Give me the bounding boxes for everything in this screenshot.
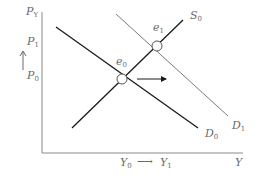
equilibrium-point-e1 [152, 41, 162, 51]
label-d0: D0 [205, 128, 218, 141]
supply-curve-s0 [72, 20, 183, 128]
label-e0: e0 [116, 56, 127, 69]
label-y1: Y1 [160, 157, 172, 170]
label-p1: P1 [27, 36, 39, 49]
label-d1: D1 [232, 120, 245, 133]
diagram-canvas [0, 0, 260, 178]
supply-demand-diagram: PY P1 P0 e0 e1 S0 D1 D0 Y0 ⟶ Y1 Y [0, 0, 260, 178]
equilibrium-point-e0 [117, 74, 127, 84]
label-s0: S0 [190, 10, 202, 23]
label-p0: P0 [27, 70, 39, 83]
right-arrow-icon: ⟶ [137, 156, 153, 167]
label-e1: e1 [153, 22, 164, 35]
demand-curve-d1 [116, 14, 228, 116]
label-py: PY [26, 6, 38, 19]
x-axis-title: Y [235, 157, 242, 168]
label-y0: Y0 [120, 157, 132, 170]
